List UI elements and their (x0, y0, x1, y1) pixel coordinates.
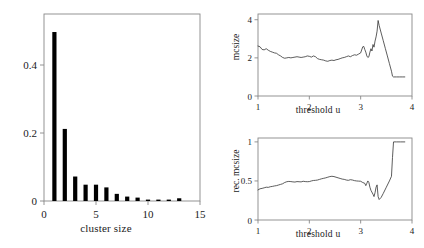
mcsize-x-axis-title: threshold u (212, 105, 424, 115)
y-tick-label: 1 (248, 137, 253, 147)
histogram-bar (136, 198, 140, 201)
rec-mcsize-x-axis-title: threshold u (212, 229, 424, 239)
y-tick-label: 0.5 (241, 176, 253, 186)
histogram-bar (156, 200, 160, 201)
cluster-size-x-axis-title: cluster size (0, 222, 212, 234)
y-tick-label: 4 (248, 15, 253, 25)
histogram-bar (167, 200, 171, 201)
plot-frame (258, 138, 412, 220)
histogram-bar (94, 185, 98, 201)
histogram-bar (115, 194, 119, 201)
x-tick-label: 10 (143, 208, 155, 220)
y-tick-label: 0.2 (23, 127, 37, 139)
x-tick-label: 15 (195, 208, 207, 220)
y-tick-label: 0 (248, 92, 253, 102)
mcsize-y-axis-title: mcsize (231, 17, 241, 77)
histogram-bar (146, 200, 150, 201)
data-series-line (258, 20, 405, 76)
chart-panel-cluster-size: 00.20.4051015 cluster size (0, 0, 212, 248)
histogram-bar (63, 129, 67, 201)
figure-container: 00.20.4051015 cluster size 0241234 thres… (0, 0, 424, 248)
rec-mcsize-y-axis-title: rec. mcsize (231, 133, 241, 209)
y-tick-label: 2 (248, 53, 253, 63)
x-tick-label: 5 (93, 208, 99, 220)
x-tick-label: 0 (41, 208, 47, 220)
histogram-bar (177, 198, 181, 201)
y-tick-label: 0.4 (23, 59, 37, 71)
y-tick-label: 0 (32, 195, 38, 207)
plot-frame (44, 14, 200, 201)
histogram-bar (52, 32, 56, 201)
cluster-size-plot: 00.20.4051015 (0, 0, 212, 248)
y-tick-label: 0 (248, 216, 253, 226)
plot-frame (258, 14, 412, 96)
histogram-bar (104, 187, 108, 201)
histogram-bar (125, 197, 129, 201)
data-series-line (258, 142, 405, 200)
histogram-bar (73, 177, 77, 201)
histogram-bar (84, 185, 88, 201)
